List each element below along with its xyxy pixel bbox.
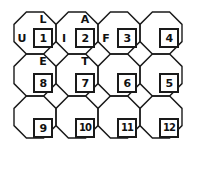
- letter-tile: F: [98, 30, 114, 46]
- letter-tile: A: [77, 11, 93, 27]
- octagon-puzzle-grid: 1 2 3 4 8 7 6 5 9 10 11 12 L A U I F E T: [0, 0, 207, 169]
- letter-tile: U: [14, 30, 30, 46]
- letter-overlay-layer: L A U I F E T: [0, 0, 207, 169]
- letter-tile: L: [35, 11, 51, 27]
- letter-tile: I: [56, 30, 72, 46]
- letter-tile: E: [35, 53, 51, 69]
- letter-tile: T: [77, 53, 93, 69]
